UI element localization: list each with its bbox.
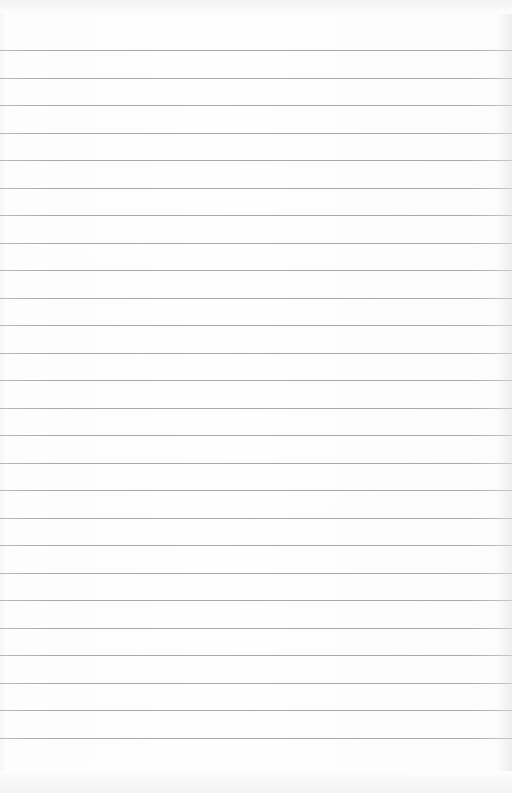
ruled-line bbox=[0, 270, 512, 271]
ruled-line bbox=[0, 655, 512, 656]
ruled-line bbox=[0, 133, 512, 134]
ruled-line bbox=[0, 380, 512, 381]
ruled-line bbox=[0, 683, 512, 684]
ruled-line bbox=[0, 518, 512, 519]
ruled-line bbox=[0, 710, 512, 711]
ruled-line bbox=[0, 353, 512, 354]
ruled-line bbox=[0, 243, 512, 244]
ruled-line bbox=[0, 490, 512, 491]
bottom-edge bbox=[0, 771, 512, 793]
ruled-line bbox=[0, 545, 512, 546]
lined-paper-sheet bbox=[0, 0, 512, 793]
ruled-line bbox=[0, 738, 512, 739]
ruled-line bbox=[0, 325, 512, 326]
ruled-line bbox=[0, 408, 512, 409]
ruled-line bbox=[0, 600, 512, 601]
ruled-line bbox=[0, 298, 512, 299]
ruled-line bbox=[0, 78, 512, 79]
ruled-line bbox=[0, 105, 512, 106]
ruled-line bbox=[0, 435, 512, 436]
ruled-line bbox=[0, 628, 512, 629]
ruled-line bbox=[0, 160, 512, 161]
ruled-line bbox=[0, 463, 512, 464]
ruled-line bbox=[0, 50, 512, 51]
ruled-line bbox=[0, 215, 512, 216]
ruled-line bbox=[0, 188, 512, 189]
top-edge bbox=[0, 0, 512, 14]
ruled-line bbox=[0, 573, 512, 574]
